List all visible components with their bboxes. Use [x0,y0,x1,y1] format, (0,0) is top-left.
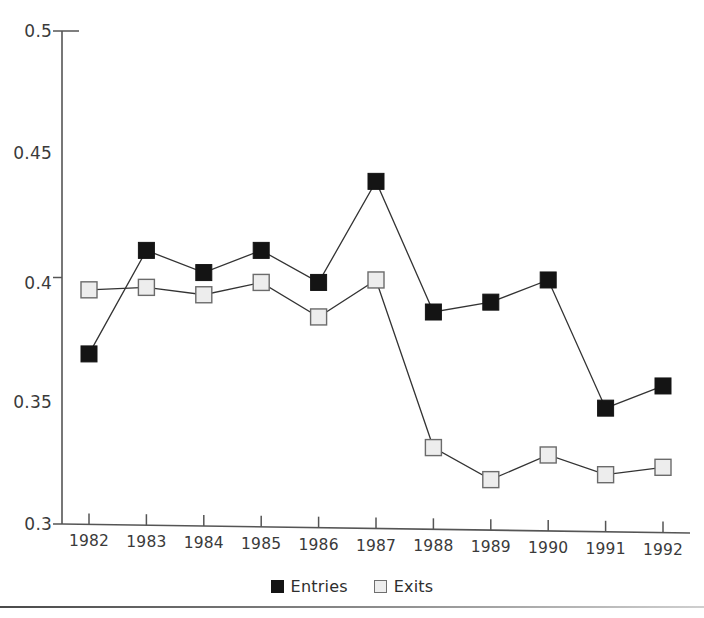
legend-label-exits: Exits [394,577,434,596]
line-chart: 0.5 0.45 0.4 0.35 0.3 198219831984198519… [0,0,704,618]
chart-plot-area [0,0,704,618]
x-tick-label: 1987 [346,537,406,555]
legend-swatch-open-square-icon [374,580,387,593]
legend-item-exits: Exits [374,577,434,596]
x-tick-label: 1988 [403,537,463,555]
legend-item-entries: Entries [271,577,348,596]
x-tick-label: 1991 [576,540,636,558]
x-tick-label: 1984 [174,534,234,552]
x-tick-label: 1985 [231,535,291,553]
y-tick-label: 0.45 [4,143,52,163]
chart-legend: Entries Exits [0,577,704,596]
y-tick-label: 0.35 [4,392,52,412]
legend-label-entries: Entries [291,577,348,596]
y-tick-label: 0.4 [4,273,52,293]
x-tick-label: 1990 [518,539,578,557]
chart-series [81,173,671,487]
y-tick-label: 0.3 [4,514,52,534]
x-tick-label: 1992 [633,541,693,559]
x-tick-label: 1989 [461,538,521,556]
x-tick-label: 1983 [116,533,176,551]
legend-swatch-filled-square-icon [271,580,284,593]
x-tick-label: 1986 [289,536,349,554]
x-tick-label: 1982 [59,532,119,550]
bottom-divider [0,606,704,608]
y-tick-label: 0.5 [4,21,52,41]
